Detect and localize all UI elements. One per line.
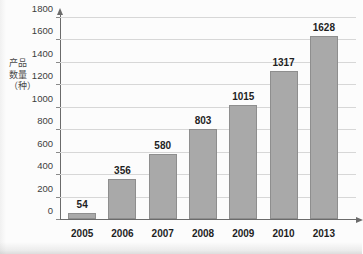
y-tick-label: 1800 (32, 3, 53, 14)
y-tick-label: 0 (48, 205, 53, 216)
y-tick-label: 1200 (32, 70, 53, 81)
y-tick-mark (56, 107, 60, 108)
y-tick-mark (56, 152, 60, 153)
y-tick-mark (56, 17, 60, 18)
y-tick-label: 600 (37, 137, 53, 148)
y-tick-mark (56, 219, 60, 220)
y-tick-label: 1000 (32, 92, 53, 103)
x-tick-label: 2005 (71, 228, 93, 239)
bar-value-label: 803 (195, 115, 212, 126)
x-tick-label: 2010 (272, 228, 294, 239)
bar (310, 36, 338, 219)
bar-value-label: 1015 (232, 91, 254, 102)
y-tick-label: 1400 (32, 47, 53, 58)
x-tick-label: 2009 (232, 228, 254, 239)
x-axis-line (60, 219, 356, 220)
bar (149, 154, 177, 219)
bar-value-label: 580 (154, 140, 171, 151)
x-axis-arrow-icon (356, 217, 363, 223)
y-tick-label: 800 (37, 115, 53, 126)
x-tick-label: 2008 (192, 228, 214, 239)
bar-value-label: 356 (114, 165, 131, 176)
y-axis-line (60, 13, 61, 220)
bar-value-label: 54 (77, 199, 88, 210)
scan-shadow-bottom (0, 242, 362, 254)
x-tick-label: 2006 (111, 228, 133, 239)
x-tick-label: 2013 (313, 228, 335, 239)
y-tick-mark (56, 39, 60, 40)
y-tick-label: 200 (37, 182, 53, 193)
y-axis-arrow-icon (57, 8, 63, 15)
scan-shadow-left (0, 0, 6, 254)
bar (108, 179, 136, 219)
bar (189, 129, 217, 219)
bar (68, 213, 96, 219)
y-tick-mark (56, 62, 60, 63)
bar (270, 71, 298, 219)
y-tick-label: 1600 (32, 25, 53, 36)
x-tick-label: 2007 (152, 228, 174, 239)
y-tick-mark (56, 84, 60, 85)
plot-area: 020040060080010001200140016001800 543565… (60, 18, 356, 220)
gridline (60, 17, 356, 18)
y-tick-mark (56, 197, 60, 198)
bar-value-label: 1628 (313, 22, 335, 33)
bar-value-label: 1317 (272, 57, 294, 68)
y-tick-mark (56, 174, 60, 175)
y-axis-title: 产品数量（种） (9, 58, 27, 93)
y-tick-mark (56, 129, 60, 130)
bar (229, 105, 257, 219)
y-tick-label: 400 (37, 160, 53, 171)
